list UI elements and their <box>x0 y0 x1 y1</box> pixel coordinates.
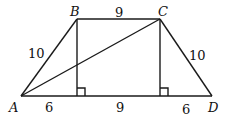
label-base-left: 6 <box>45 100 53 115</box>
right-angle-marker-b <box>77 88 85 96</box>
vertex-label-b: B <box>69 4 80 19</box>
trapezoid-diagram: A B C D 10 9 10 6 9 6 <box>0 0 231 118</box>
vertex-label-c: C <box>158 4 168 19</box>
label-base-right: 6 <box>182 102 190 117</box>
label-ab: 10 <box>28 46 45 61</box>
label-bc: 9 <box>115 5 123 20</box>
vertex-label-a: A <box>8 100 18 115</box>
label-base-middle: 9 <box>116 100 124 115</box>
vertex-label-d: D <box>207 100 219 115</box>
right-angle-marker-c <box>160 88 168 96</box>
label-cd: 10 <box>189 48 206 63</box>
